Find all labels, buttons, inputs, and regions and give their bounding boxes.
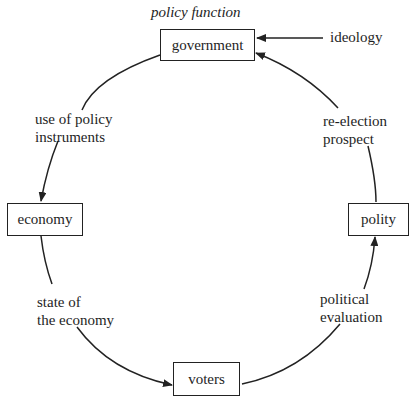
title-policy-function: policy function xyxy=(151,3,241,21)
edge-label-economy-voters: state of the economy xyxy=(37,293,114,329)
arrow-government-to-economy xyxy=(82,55,160,110)
node-polity: polity xyxy=(348,203,409,236)
political-business-cycle-diagram: policy function government ideology econ… xyxy=(0,0,414,416)
edge-label-polity-government: re-election prospect xyxy=(323,112,387,148)
node-economy: economy xyxy=(7,203,83,236)
edge-label-government-economy: use of policy instruments xyxy=(35,110,112,146)
node-voters: voters xyxy=(173,362,240,396)
arrow-economy-to-voters xyxy=(41,236,52,284)
label-ideology: ideology xyxy=(330,28,383,46)
arrow-polity-to-government xyxy=(368,146,376,202)
node-government: government xyxy=(160,29,255,61)
arrow-voters-to-polity xyxy=(242,324,340,384)
edge-label-voters-polity: political evaluation xyxy=(320,290,382,326)
